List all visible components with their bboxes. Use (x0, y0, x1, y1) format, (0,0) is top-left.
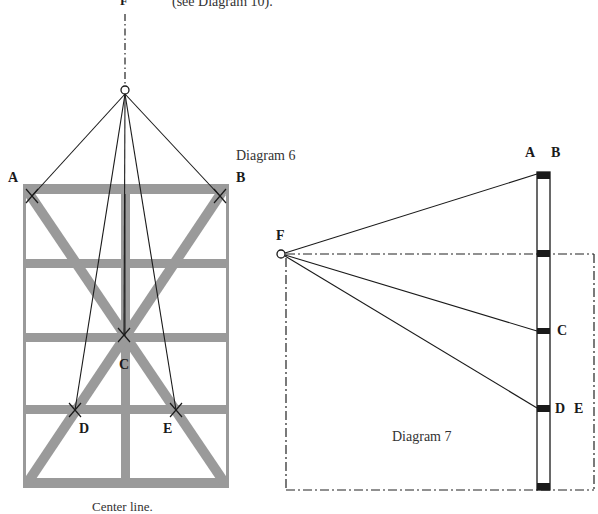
diagram-canvas: (see Diagram 10). F A B C D E Diagram 6 … (0, 0, 598, 514)
d7-label-c: C (557, 323, 567, 339)
side-sight-lines (285, 174, 537, 408)
d7-label-e: E (574, 401, 583, 417)
d7-caption: Diagram 7 (392, 429, 451, 445)
d6-caption: Diagram 6 (236, 148, 295, 164)
focal-point-f (121, 86, 129, 94)
d6-label-a: A (8, 170, 18, 186)
d6-label-e: E (163, 421, 172, 437)
d6-label-f: F (120, 0, 128, 9)
d7-label-a: A (525, 145, 535, 161)
d7-label-d: D (555, 401, 565, 417)
focal-point-f-side (277, 250, 285, 258)
top-note: (see Diagram 10). (172, 0, 273, 10)
d6-footer: Center line. (92, 499, 153, 514)
d6-label-d: D (79, 421, 89, 437)
d7-label-f: F (276, 228, 285, 244)
d6-label-b: B (236, 170, 245, 186)
d7-label-b: B (551, 145, 560, 161)
diagram-svg (0, 0, 598, 514)
diagram-6 (23, 14, 229, 488)
d6-label-c: C (119, 357, 129, 373)
